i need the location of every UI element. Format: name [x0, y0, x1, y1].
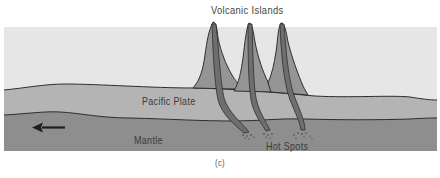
- hot-spot-diagram: [0, 0, 440, 178]
- pacific-plate-label: Pacific Plate: [142, 95, 196, 107]
- figure-caption: (c): [215, 158, 225, 168]
- volcanic-islands-label: Volcanic Islands: [211, 4, 283, 16]
- mantle-label: Mantle: [134, 134, 163, 146]
- hot-spots-label: Hot Spots: [266, 140, 308, 152]
